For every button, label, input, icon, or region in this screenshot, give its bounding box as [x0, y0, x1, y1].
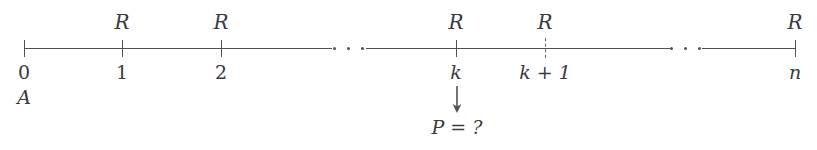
axis-segment	[366, 48, 670, 49]
ring-label-k: R	[448, 12, 463, 32]
number-line-figure: R R R R R 0 1 2 k k + 1 n A P = ?	[0, 0, 817, 150]
tick-mark-k-plus-1	[545, 38, 546, 58]
tick-label-k-plus-1: k + 1	[519, 63, 571, 82]
tick-mark-2	[221, 40, 222, 57]
ring-label-2: R	[213, 12, 228, 32]
ellipsis-dot	[361, 47, 364, 50]
ellipsis-dot	[684, 47, 687, 50]
ellipsis-dot	[670, 47, 673, 50]
tick-label-0: 0	[18, 63, 30, 82]
tick-label-k: k	[450, 63, 462, 82]
ring-label-1: R	[114, 12, 129, 32]
ellipsis-left	[333, 46, 364, 51]
tick-mark-n	[795, 40, 796, 57]
tick-mark-1	[122, 40, 123, 57]
ellipsis-dot	[333, 47, 336, 50]
tick-label-1: 1	[116, 63, 128, 82]
tick-mark-k	[456, 40, 457, 57]
down-arrow-icon	[450, 86, 464, 118]
tick-mark-0	[24, 40, 25, 57]
ellipsis-dot	[698, 47, 701, 50]
tick-label-2: 2	[215, 63, 227, 82]
unknown-module-label: P = ?	[432, 118, 483, 137]
ellipsis-right	[670, 46, 701, 51]
ring-label-n: R	[787, 12, 802, 32]
ellipsis-dot	[347, 47, 350, 50]
axis-segment	[24, 48, 332, 49]
axis-segment	[702, 48, 795, 49]
corner-label-a: A	[17, 88, 31, 107]
tick-label-n: n	[789, 63, 801, 82]
ring-label-k-plus-1: R	[537, 12, 552, 32]
